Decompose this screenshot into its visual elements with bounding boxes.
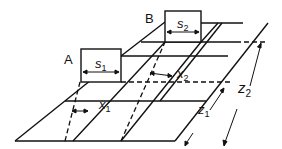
load-a-label: A [64, 52, 73, 67]
z2-arrowhead [258, 43, 262, 48]
z2-direction-arrowhead [223, 140, 227, 146]
z1-label: z1 [197, 102, 210, 119]
z1-arrowhead [220, 88, 224, 93]
z1-direction-arrowhead [185, 141, 189, 146]
z2-dimension [250, 44, 261, 86]
z2-direction-arrow [224, 109, 237, 145]
load-b-label: B [145, 11, 154, 26]
dashed-b-projection [121, 42, 165, 141]
load-grid-diagram: A B s1 s2 x1 x2 z1 z2 [0, 0, 282, 149]
x1-label: x1 [98, 97, 111, 114]
z2-label: z2 [237, 79, 252, 99]
dimension-arrows [72, 30, 261, 146]
grid-slant-2 [121, 42, 201, 141]
left-top-slant [121, 22, 165, 56]
